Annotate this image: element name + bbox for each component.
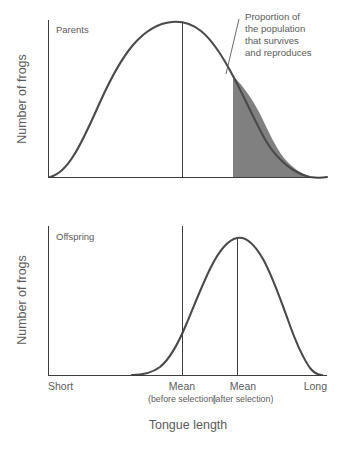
x-axis-tick-labels: Short Mean (before selection) Mean (afte…: [48, 380, 327, 404]
x-tick-label-long: Long: [304, 380, 328, 392]
frog-tongue-selection-diagram: Parents Number of frogs Proportion of th…: [0, 0, 353, 450]
offspring-panel: Offspring Number of frogs: [15, 226, 327, 376]
annotation-leader-line: [226, 19, 239, 74]
x-axis-title: Tongue length: [149, 418, 228, 432]
parents-panel: Parents Number of frogs Proportion of th…: [15, 11, 327, 178]
x-tick-sublabel-after-selection: (after selection): [213, 394, 274, 404]
x-tick-sublabel-before-selection: (before selection): [148, 394, 216, 404]
x-tick-label-mean-before: Mean: [169, 380, 195, 392]
offspring-y-axis-title: Number of frogs: [15, 255, 29, 345]
annotation-line-2: the population: [245, 23, 305, 34]
offspring-panel-label: Offspring: [56, 231, 94, 242]
offspring-distribution-curve: [132, 238, 322, 375]
survival-annotation-text: Proportion of the population that surviv…: [245, 11, 312, 58]
x-tick-label-mean-after: Mean: [230, 380, 256, 392]
survival-proportion-shaded-area: [233, 76, 327, 177]
parents-y-axis-title: Number of frogs: [15, 54, 29, 144]
figure-root: Parents Number of frogs Proportion of th…: [0, 0, 353, 450]
x-tick-label-short: Short: [48, 380, 73, 392]
annotation-line-3: that survives: [245, 35, 299, 46]
parents-panel-label: Parents: [56, 24, 89, 35]
annotation-line-1: Proportion of: [245, 11, 300, 22]
annotation-line-4: and reproduces: [245, 47, 312, 58]
